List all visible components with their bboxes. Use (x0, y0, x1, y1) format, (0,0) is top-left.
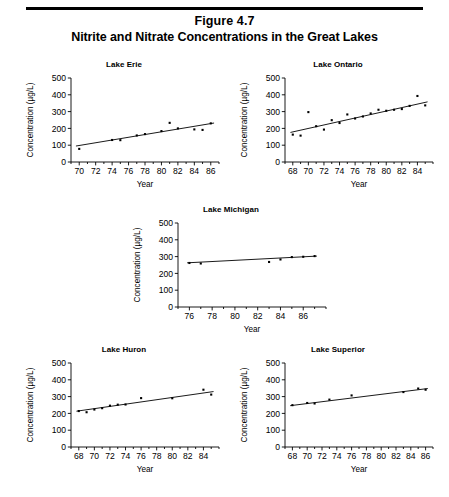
data-point (119, 139, 121, 141)
x-tick-label: 76 (136, 451, 146, 461)
x-tick-label: 78 (207, 311, 217, 321)
data-point (323, 129, 325, 131)
data-point (210, 394, 212, 396)
data-point (177, 127, 179, 129)
x-tick-label: 68 (288, 451, 298, 461)
data-point (292, 134, 294, 136)
data-point (300, 135, 302, 137)
figure-page: Figure 4.7 Nitrite and Nitrate Concentra… (0, 0, 449, 497)
data-point (385, 110, 387, 112)
data-point (117, 404, 119, 406)
data-point (291, 256, 293, 258)
y-tick-label: 300 (266, 107, 281, 117)
panel-title-lake-huron: Lake Huron (24, 345, 224, 354)
x-tick-label: 70 (90, 451, 100, 461)
y-tick-label: 200 (266, 124, 281, 134)
panel-title-lake-erie: Lake Erie (24, 60, 224, 69)
y-axis-title: Concentration (µg/L) (26, 367, 35, 442)
x-tick-label: 86 (206, 166, 216, 176)
data-point (302, 256, 304, 258)
y-tick-label: 0 (61, 157, 66, 167)
data-point (210, 122, 212, 124)
data-points (292, 95, 427, 137)
y-tick-label: 300 (52, 107, 67, 117)
data-point (140, 397, 142, 399)
trend-line (187, 256, 317, 263)
x-tick-label: 68 (288, 166, 298, 176)
y-axis-title: Concentration (µg/L) (240, 367, 249, 442)
x-axis-title: Year (137, 180, 154, 188)
data-point (314, 255, 316, 257)
y-tick-label: 200 (159, 269, 174, 279)
plot-lake-huron: 0100200300400500687072747678808284Concen… (24, 357, 224, 473)
header-rule (26, 7, 423, 10)
panel-lake-ontario: Lake Ontario 010020030040050068707274767… (238, 60, 438, 188)
x-tick-label: 76 (347, 451, 357, 461)
data-point (338, 122, 340, 124)
data-point (193, 128, 195, 130)
y-tick-label: 100 (52, 140, 67, 150)
x-axis-title: Year (351, 465, 368, 473)
y-axis-title: Concentration (µg/L) (26, 82, 35, 157)
x-tick-label: 72 (91, 166, 101, 176)
y-tick-label: 500 (52, 73, 67, 83)
plot-lake-erie: 0100200300400500707274767880828486Concen… (24, 72, 224, 188)
data-point (111, 139, 113, 141)
figure-number: Figure 4.7 (0, 14, 449, 29)
panel-lake-huron: Lake Huron 01002003004005006870727476788… (24, 345, 224, 473)
scatter-plot: 0100200300400500707274767880828486Concen… (24, 72, 224, 188)
data-point (351, 394, 353, 396)
data-point (279, 258, 281, 260)
data-point (171, 397, 173, 399)
data-point (409, 105, 411, 107)
x-tick-label: 70 (302, 451, 312, 461)
y-tick-label: 100 (266, 140, 281, 150)
data-point (424, 104, 426, 106)
x-tick-label: 70 (304, 166, 314, 176)
data-point (393, 109, 395, 111)
data-point (202, 129, 204, 131)
y-tick-label: 400 (52, 90, 67, 100)
data-point (314, 402, 316, 404)
x-tick-label: 70 (74, 166, 84, 176)
y-tick-label: 400 (52, 375, 67, 385)
data-point (144, 133, 146, 135)
data-point (268, 261, 270, 263)
trend-line (290, 102, 427, 133)
data-point (328, 399, 330, 401)
data-point (331, 119, 333, 121)
x-tick-label: 82 (183, 451, 193, 461)
trend-line (290, 389, 428, 406)
x-tick-label: 80 (230, 311, 240, 321)
y-tick-label: 300 (52, 392, 67, 402)
x-tick-label: 84 (413, 166, 423, 176)
x-tick-label: 72 (105, 451, 115, 461)
data-point (169, 122, 171, 124)
y-tick-label: 300 (159, 252, 174, 262)
x-tick-label: 80 (167, 451, 177, 461)
data-point (306, 402, 308, 404)
y-tick-label: 0 (275, 157, 280, 167)
y-tick-label: 400 (266, 375, 281, 385)
y-tick-label: 500 (266, 358, 281, 368)
data-point (354, 117, 356, 119)
figure-heading: Figure 4.7 Nitrite and Nitrate Concentra… (0, 14, 449, 45)
x-tick-label: 76 (185, 311, 195, 321)
x-tick-label: 68 (74, 451, 84, 461)
x-tick-label: 78 (366, 166, 376, 176)
panel-title-lake-superior: Lake Superior (238, 345, 438, 354)
plot-lake-michigan: 0100200300400500767880828486Concentratio… (131, 217, 331, 333)
data-point (291, 404, 293, 406)
x-tick-label: 76 (124, 166, 134, 176)
trend-line (76, 392, 213, 412)
x-tick-label: 74 (121, 451, 131, 461)
y-tick-label: 400 (159, 235, 174, 245)
y-axis-title: Concentration (µg/L) (240, 82, 249, 157)
x-tick-label: 82 (173, 166, 183, 176)
x-tick-label: 84 (276, 311, 286, 321)
data-point (78, 148, 80, 150)
data-point (136, 134, 138, 136)
panel-lake-superior: Lake Superior 01002003004005006870727476… (238, 345, 438, 473)
y-tick-label: 200 (266, 409, 281, 419)
y-tick-label: 200 (52, 124, 67, 134)
